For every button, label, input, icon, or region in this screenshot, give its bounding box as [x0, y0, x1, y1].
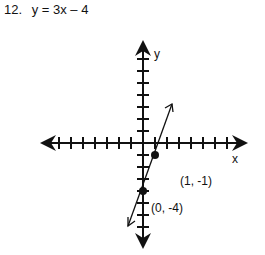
- point-0-neg4: [139, 187, 147, 195]
- y-axis-label: y: [154, 47, 160, 61]
- point-label-1-neg1: (1, -1): [180, 174, 212, 188]
- x-axis-label: x: [232, 152, 238, 166]
- coordinate-graph: y x (1, -1) (0, -4): [0, 0, 265, 255]
- point-label-0-neg4: (0, -4): [151, 201, 183, 215]
- y-axis: [137, 44, 149, 245]
- point-1-neg1: [151, 151, 159, 159]
